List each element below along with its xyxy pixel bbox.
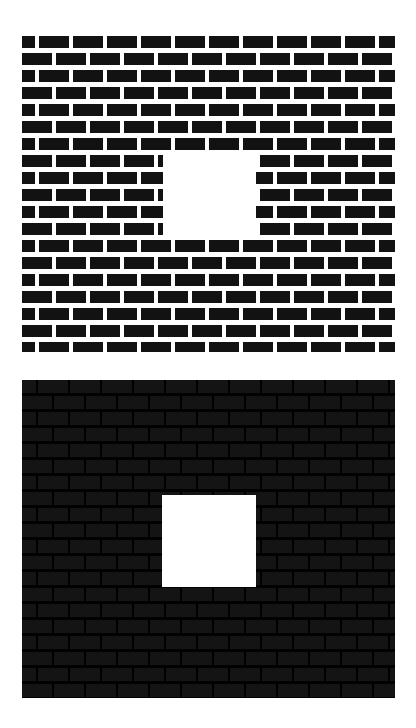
brick — [22, 172, 35, 184]
brick — [118, 556, 148, 569]
brick — [214, 460, 244, 473]
brick — [209, 308, 239, 320]
brick — [379, 36, 395, 48]
brick — [390, 636, 395, 649]
brick — [141, 274, 171, 286]
brick — [134, 604, 164, 617]
brick — [22, 588, 52, 601]
brick — [38, 668, 68, 681]
brick — [124, 325, 154, 337]
brick — [345, 36, 375, 48]
brick — [246, 684, 276, 697]
brick — [209, 342, 239, 352]
brick — [311, 70, 341, 82]
brick-row — [22, 121, 395, 133]
brick — [262, 444, 292, 457]
brick — [198, 476, 228, 489]
brick-row — [22, 588, 395, 601]
brick — [358, 444, 388, 457]
brick — [102, 604, 132, 617]
brick — [54, 492, 84, 505]
brick — [311, 240, 341, 252]
brick — [278, 684, 308, 697]
brick — [102, 476, 132, 489]
brick — [214, 620, 244, 633]
brick — [390, 444, 395, 457]
brick — [310, 652, 340, 665]
brick — [54, 396, 84, 409]
brick — [311, 274, 341, 286]
brick — [277, 206, 307, 218]
brick — [277, 36, 307, 48]
brick — [390, 380, 395, 393]
brick — [107, 36, 137, 48]
brick — [141, 104, 171, 116]
brick-row — [22, 412, 395, 425]
brick — [310, 588, 340, 601]
brick — [70, 668, 100, 681]
brick — [56, 189, 86, 201]
brick — [198, 444, 228, 457]
brick-row — [22, 257, 395, 269]
brick — [22, 636, 36, 649]
brick — [262, 668, 292, 681]
brick — [326, 444, 356, 457]
brick — [22, 53, 52, 65]
brick — [90, 155, 120, 167]
brick — [294, 540, 324, 553]
brick — [54, 588, 84, 601]
brick — [150, 460, 180, 473]
brick — [107, 206, 137, 218]
brick-row — [22, 396, 395, 409]
brick — [56, 155, 86, 167]
brick — [182, 396, 212, 409]
brick — [102, 444, 132, 457]
brick — [294, 508, 324, 521]
brick — [22, 556, 52, 569]
brick — [22, 652, 52, 665]
brick — [150, 428, 180, 441]
brick-row — [22, 138, 395, 150]
brick — [70, 444, 100, 457]
brick — [374, 428, 395, 441]
brick — [22, 444, 36, 457]
brick — [390, 412, 395, 425]
brick — [134, 668, 164, 681]
brick — [278, 428, 308, 441]
brick — [328, 189, 358, 201]
brick — [22, 524, 52, 537]
brick — [345, 274, 375, 286]
brick — [379, 240, 395, 252]
brick — [54, 524, 84, 537]
brick — [277, 70, 307, 82]
brick — [54, 428, 84, 441]
brick — [56, 53, 86, 65]
brick — [214, 396, 244, 409]
brick — [73, 342, 103, 352]
brick — [134, 412, 164, 425]
brick — [124, 87, 154, 99]
brick — [90, 325, 120, 337]
brick-row — [22, 636, 395, 649]
brick — [246, 620, 276, 633]
brick — [328, 121, 358, 133]
brick — [124, 291, 154, 303]
brick — [22, 223, 52, 235]
brick — [311, 104, 341, 116]
brick — [86, 684, 116, 697]
brick — [102, 540, 132, 553]
brick — [166, 604, 196, 617]
brick — [38, 636, 68, 649]
brick — [390, 476, 395, 489]
brick — [158, 87, 188, 99]
brick — [86, 588, 116, 601]
brick — [243, 138, 273, 150]
white-aperture-bottom — [162, 495, 256, 587]
brick — [328, 257, 358, 269]
brick — [134, 380, 164, 393]
brick — [118, 428, 148, 441]
brick — [294, 668, 324, 681]
brick — [345, 342, 375, 352]
brick — [22, 668, 36, 681]
brick — [124, 155, 154, 167]
